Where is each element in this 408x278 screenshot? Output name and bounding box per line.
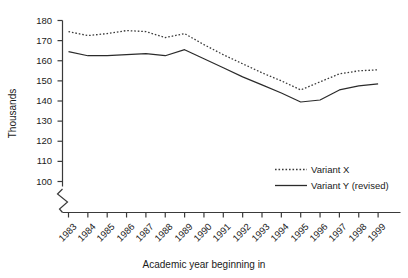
series-line <box>69 31 379 90</box>
x-axis-ticks <box>69 213 379 218</box>
legend-label-variant-y: Variant Y (revised) <box>311 180 389 191</box>
y-axis-ticks <box>58 21 63 182</box>
y-tick-label: 130 <box>26 115 52 126</box>
legend-label-variant-x: Variant X <box>311 164 349 175</box>
y-axis-break-icon <box>58 189 68 213</box>
y-tick-label: 170 <box>26 35 52 46</box>
legend-markers <box>275 170 307 186</box>
y-tick-label: 120 <box>26 135 52 146</box>
y-tick-label: 110 <box>26 155 52 166</box>
y-tick-label: 100 <box>26 176 52 187</box>
y-tick-label: 140 <box>26 95 52 106</box>
y-tick-label: 150 <box>26 75 52 86</box>
y-tick-label: 180 <box>26 15 52 26</box>
series-line <box>69 50 379 102</box>
y-tick-label: 160 <box>26 55 52 66</box>
line-chart: Thousands Academic year beginning in Var… <box>0 0 408 278</box>
data-series-group <box>69 31 379 102</box>
